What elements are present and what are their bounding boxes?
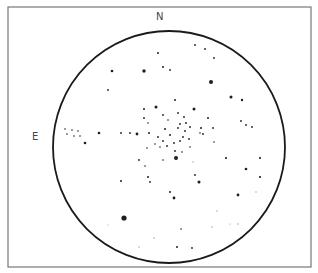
star (144, 165, 146, 167)
star (183, 116, 185, 118)
star (143, 108, 145, 110)
star (129, 132, 131, 134)
star (177, 112, 179, 114)
star (162, 140, 164, 142)
star (120, 132, 122, 134)
star (107, 89, 109, 91)
star (169, 134, 171, 136)
star (162, 114, 164, 116)
star (188, 138, 190, 140)
star (146, 147, 148, 149)
star (191, 247, 193, 249)
star (157, 52, 159, 54)
star (147, 122, 149, 124)
star (179, 123, 181, 125)
field-of-view-circle (53, 31, 285, 263)
star (204, 48, 206, 50)
star (121, 215, 126, 220)
star (143, 117, 145, 119)
star (159, 146, 161, 148)
east-label: E (32, 131, 38, 142)
star (120, 180, 122, 182)
star (64, 128, 66, 130)
star (174, 156, 178, 160)
star (200, 127, 202, 129)
star (209, 80, 213, 84)
star (192, 161, 193, 162)
star (111, 70, 114, 73)
star (237, 194, 240, 197)
star (237, 223, 238, 224)
star (71, 129, 73, 131)
star (199, 132, 201, 134)
star (202, 133, 204, 135)
star (84, 142, 87, 145)
star (136, 133, 139, 136)
star (193, 108, 196, 111)
star (162, 66, 164, 68)
star (216, 210, 217, 211)
star (207, 117, 209, 119)
star-field-sketch: N E (0, 0, 318, 273)
star (79, 135, 81, 137)
star (251, 126, 253, 128)
star (77, 130, 79, 132)
star (213, 57, 215, 59)
north-label: N (156, 11, 163, 22)
star (189, 126, 191, 128)
star (173, 142, 175, 144)
star (179, 140, 181, 142)
star (107, 224, 108, 225)
star (182, 136, 184, 138)
star (169, 191, 171, 193)
star (259, 176, 261, 178)
star (240, 120, 242, 122)
star (174, 150, 176, 152)
star (189, 146, 191, 148)
star (154, 143, 156, 145)
star (148, 132, 150, 134)
star (149, 181, 151, 183)
star (176, 246, 178, 248)
star (194, 174, 196, 176)
star (162, 159, 164, 161)
star (142, 69, 145, 72)
star-chart-canvas (0, 0, 318, 273)
star (166, 145, 168, 147)
star (212, 127, 214, 129)
star (164, 128, 166, 130)
star (98, 132, 101, 135)
star (185, 122, 187, 124)
star (73, 135, 75, 137)
star (184, 130, 186, 132)
star (174, 99, 176, 101)
star (138, 159, 140, 161)
star (138, 246, 139, 247)
star (230, 96, 233, 99)
star (198, 181, 201, 184)
star (181, 151, 183, 153)
star (177, 127, 179, 129)
star (147, 176, 149, 178)
star (213, 141, 215, 143)
star (211, 226, 212, 227)
star (245, 124, 247, 126)
star (157, 136, 159, 138)
star (225, 157, 227, 159)
star (180, 228, 182, 230)
star (229, 223, 230, 224)
star (169, 69, 171, 71)
star (155, 106, 158, 109)
star (255, 191, 256, 192)
star (173, 197, 176, 200)
star (245, 168, 248, 171)
star (66, 133, 68, 135)
star (194, 44, 196, 46)
star (167, 119, 169, 121)
star (259, 157, 261, 159)
star (153, 237, 154, 238)
star (241, 99, 243, 101)
